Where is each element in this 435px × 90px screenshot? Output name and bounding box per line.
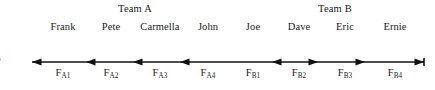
force-arrowhead xyxy=(356,58,366,65)
force-subscript: B3 xyxy=(344,72,353,80)
force-subscript: A3 xyxy=(158,72,167,80)
force-subscript: A4 xyxy=(206,72,215,80)
force-label: FB4 xyxy=(388,67,402,80)
force-arrowhead xyxy=(272,58,282,65)
force-label: FA3 xyxy=(153,67,168,80)
force-symbol: F xyxy=(201,67,207,78)
force-diagram-figure: 6 Team A Team B Frank Pete Carmella John… xyxy=(0,0,435,90)
force-label: FB2 xyxy=(292,67,306,80)
force-symbol: F xyxy=(246,67,252,78)
force-arrowhead xyxy=(415,58,425,65)
force-subscript: B1 xyxy=(252,72,261,80)
force-arrowhead xyxy=(86,58,96,65)
force-symbol: F xyxy=(56,67,62,78)
force-arrowhead xyxy=(32,58,42,65)
force-subscript: B4 xyxy=(394,72,403,80)
force-subscript: A1 xyxy=(61,72,70,80)
axis-graphics xyxy=(32,58,424,66)
force-arrowhead xyxy=(309,58,319,65)
force-arrowhead xyxy=(133,58,143,65)
force-symbol: F xyxy=(292,67,298,78)
force-label: FB1 xyxy=(246,67,260,80)
force-arrowhead xyxy=(180,58,190,65)
force-subscript: A2 xyxy=(109,72,118,80)
force-subscript: B2 xyxy=(298,72,307,80)
force-label: FA2 xyxy=(104,67,119,80)
force-symbol: F xyxy=(153,67,159,78)
force-symbol: F xyxy=(388,67,394,78)
force-symbol: F xyxy=(104,67,110,78)
force-symbol: F xyxy=(338,67,344,78)
force-label: FA1 xyxy=(56,67,71,80)
force-label: FB3 xyxy=(338,67,352,80)
force-label: FA4 xyxy=(201,67,216,80)
